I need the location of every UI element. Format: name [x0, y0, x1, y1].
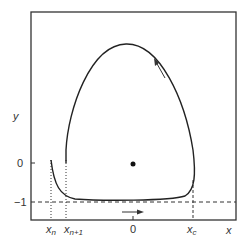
x-tick-label-xc: xc — [186, 223, 197, 237]
fixed-point-dot — [131, 162, 136, 167]
y-axis-label: y — [12, 110, 20, 122]
x-tick-label-xn1: xn+1 — [63, 223, 83, 237]
x-axis-label: x — [225, 224, 232, 236]
y-tick-label-minus-1: −1 — [14, 196, 27, 208]
phase-portrait: y 0 −1 xn xn+1 0 xc x — [0, 0, 249, 247]
plot-frame — [31, 12, 236, 220]
y-tick-label-0: 0 — [17, 157, 23, 169]
arrow-right-head-icon — [137, 210, 144, 215]
limit-cycle-trajectory — [51, 44, 194, 200]
x-tick-label-0: 0 — [130, 223, 136, 235]
x-tick-label-xn: xn — [45, 223, 57, 237]
